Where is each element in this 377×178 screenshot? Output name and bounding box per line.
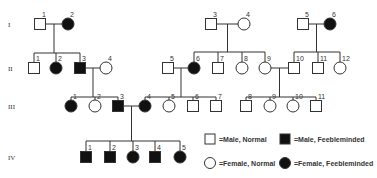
legend-item: =Male, Normal [205,134,267,144]
affected-female-icon [174,151,186,163]
normal-male-icon [35,19,46,30]
affected-male-icon [75,63,86,74]
individual-number: 5 [171,93,175,100]
normal-male-icon [205,134,215,144]
individual-number: 8 [244,55,248,62]
individual-number: 11 [318,93,325,100]
legend-item: =Male, Feebleminded [280,134,365,144]
pedigree-diagram: IIIIIIIV 1234561234567891011121234567891… [0,0,377,178]
normal-female-icon [259,62,271,74]
legend-label: =Female, Feebleminded [294,160,373,168]
individual-III-9: 9 [264,93,276,113]
individual-II-12: 12 [334,55,350,75]
individual-number: 9 [272,93,276,100]
individual-number: 12 [342,55,350,62]
individual-III-1: 1 [65,93,77,113]
normal-male-icon [188,101,199,112]
individual-number: 3 [120,93,124,100]
normal-female-icon [264,100,276,112]
individual-III-2: 2 [89,93,101,113]
individual-I-1: 1 [35,11,47,30]
normal-male-icon [213,63,224,74]
normal-male-icon [29,63,40,74]
individual-number: 4 [108,55,112,62]
normal-male-icon [211,101,222,112]
affected-female-icon [324,18,336,30]
individual-number: 10 [296,55,304,62]
affected-female-icon [62,18,74,30]
individual-number: 5 [170,55,174,62]
individual-number: 5 [305,11,309,18]
normal-male-icon [289,63,300,74]
generation-label: IV [8,154,15,162]
affected-male-icon [105,152,116,163]
normal-female-icon [236,62,248,74]
normal-female-icon [89,100,101,112]
individual-number: 4 [147,93,151,100]
individual-number: 6 [195,93,199,100]
individual-number: 1 [88,144,92,151]
affected-female-icon [139,100,151,112]
normal-male-icon [298,19,309,30]
individual-number: 3 [135,144,139,151]
individual-number: 3 [82,55,86,62]
individual-number: 2 [97,93,101,100]
individual-number: 6 [196,55,200,62]
affected-male-icon [81,152,92,163]
individual-number: 9 [267,55,271,62]
individual-number: 7 [218,93,222,100]
individual-number: 7 [220,55,224,62]
affected-male-icon [113,101,124,112]
individual-number: 1 [36,55,40,62]
normal-male-icon [241,101,252,112]
normal-female-icon [205,158,216,169]
legend-label: =Female, Normal [219,160,275,168]
generation-labels: IIIIIIIV [8,21,16,162]
individual-number: 3 [213,11,217,18]
normal-female-icon [287,100,299,112]
affected-female-icon [65,100,77,112]
generation-label: I [8,21,11,29]
individual-number: 2 [112,144,116,151]
individual-II-11: 11 [313,55,328,74]
normal-male-icon [311,101,322,112]
legend-item: =Female, Normal [205,158,276,169]
individual-number: 8 [248,93,252,100]
individual-number: 6 [332,11,336,18]
normal-female-icon [334,62,346,74]
individual-III-7: 7 [211,93,223,112]
individual-I-2: 2 [62,11,74,31]
legend-label: =Male, Normal [219,136,267,144]
individual-number: 2 [58,55,62,62]
individual-III-4: 4 [139,93,151,113]
normal-female-icon [238,18,250,30]
affected-female-icon [50,62,62,74]
legend-label: =Male, Feebleminded [294,136,365,144]
individual-III-8: 8 [241,93,253,112]
normal-male-icon [313,63,324,74]
individual-II-10: 10 [289,55,304,74]
legend: =Male, Normal=Male, Feebleminded=Female,… [205,134,374,169]
normal-female-icon [163,100,175,112]
individual-II-4: 4 [100,55,112,75]
affected-female-icon [127,151,139,163]
generation-label: II [8,65,13,73]
generation-label: III [8,103,16,111]
affected-female-icon [280,158,291,169]
individual-number: 1 [42,11,46,18]
normal-male-icon [163,63,174,74]
individual-I-3: 3 [206,11,218,30]
individual-III-10: 10 [287,93,303,113]
individual-I-5: 5 [298,11,310,30]
connection-lines [34,24,340,152]
normal-female-icon [100,62,112,74]
individual-III-5: 5 [163,93,175,113]
individual-number: 2 [70,11,74,18]
pedigree-chart: IIIIIIIV 1234561234567891011121234567891… [0,0,377,178]
individual-number: 1 [73,93,77,100]
affected-male-icon [150,152,161,163]
individual-II-5: 5 [163,55,175,74]
affected-male-icon [280,134,290,144]
individual-III-6: 6 [188,93,200,112]
individual-number: 11 [320,55,327,62]
